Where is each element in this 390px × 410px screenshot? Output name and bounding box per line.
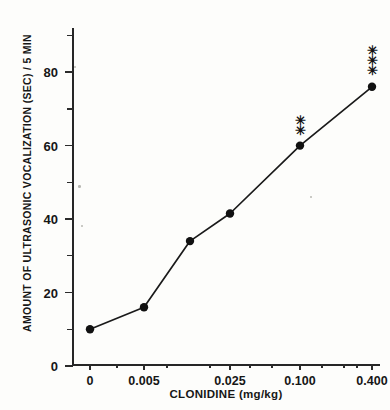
- y-axis-tick-label: 0: [24, 359, 58, 374]
- x-axis-title: CLONIDINE (mg/kg): [72, 388, 380, 400]
- x-axis-tick-label: 0: [87, 374, 94, 388]
- x-axis-tick-label: 0.025: [214, 374, 245, 388]
- scan-speck: [310, 196, 312, 198]
- y-axis-tick-label: 80: [24, 65, 58, 80]
- data-series: [72, 28, 380, 366]
- plot-area: 020406080 00.0050.0250.1000.400 ✳✳✳✳✳: [72, 28, 380, 366]
- data-point: [296, 141, 304, 149]
- figure-panel: AMOUNT OF ULTRASONIC VOCALIZATION (SEC) …: [0, 0, 390, 410]
- y-axis-tick-label: 20: [24, 285, 58, 300]
- data-point: [368, 83, 376, 91]
- data-point: [86, 325, 94, 333]
- series-markers: [86, 83, 376, 334]
- data-point: [140, 303, 148, 311]
- significance-marker: ✳✳✳: [367, 46, 378, 76]
- scan-speck: [81, 225, 83, 227]
- y-axis-tick-label: 60: [24, 138, 58, 153]
- x-axis-tick-label: 0.100: [284, 374, 315, 388]
- significance-marker: ✳✳: [295, 116, 306, 136]
- scan-speck: [78, 185, 81, 188]
- x-axis-tick-label: 0.400: [356, 374, 387, 388]
- scan-speck: [74, 66, 76, 68]
- data-point: [226, 209, 234, 217]
- x-axis-tick-label: 0.005: [128, 374, 159, 388]
- series-line: [90, 87, 372, 329]
- data-point: [186, 237, 194, 245]
- y-axis-tick-label: 40: [24, 212, 58, 227]
